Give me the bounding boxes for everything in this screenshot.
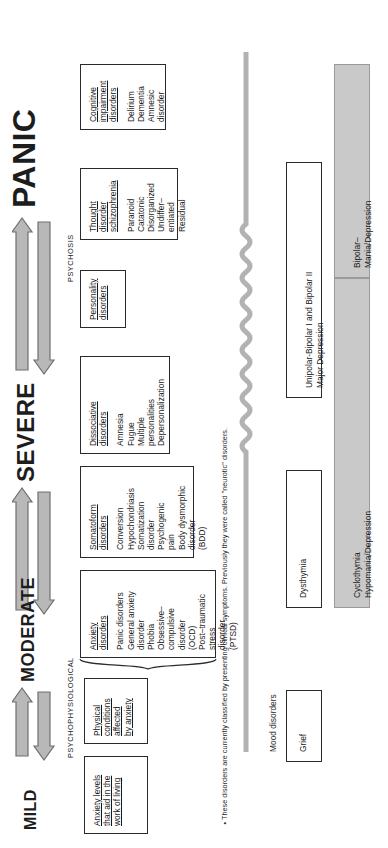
mood-box-bipolar-mania-depression[interactable]: Bipolar– Mania/Depression	[334, 64, 370, 278]
box-somatoform-disorders-heading: Somatoform disorders	[88, 473, 108, 550]
mood-disorders-axis-label: Mood disorders	[268, 694, 278, 752]
mood-box-bipolar-mania-depression-label: Bipolar– Mania/Depression	[352, 201, 372, 269]
box-somatoform-disorders-items: Conversion Hypochondriasis Somatization …	[115, 473, 207, 550]
box-cognitive-impairment[interactable]: Cognitive impairment disorders Delirium …	[80, 64, 166, 130]
box-anxiety-disorders-heading: Anxiety disorders	[88, 577, 108, 650]
box-thought-disorder[interactable]: Thought disorder schizophrenia Paranoid …	[80, 168, 178, 240]
section-label-psychosis: PSYCHOSIS	[66, 234, 75, 282]
mood-box-unipolar-major-depression-label: Unipolar-Bipolar I and Bipolar II Major …	[304, 272, 324, 388]
box-anxiety-levels-heading: Anxiety levels that aid in the work of l…	[92, 763, 123, 826]
box-dissociative-disorders[interactable]: Dissociative disorders Amnesia Fugue Mul…	[80, 356, 170, 454]
scale-label-moderate: MODERATE	[18, 577, 39, 682]
box-personality-disorders[interactable]: Personality disorders	[80, 270, 126, 328]
mood-box-grief[interactable]: Grief	[286, 690, 322, 762]
scale-arrow-severe-panic	[12, 216, 58, 376]
box-thought-disorder-items: Paranoid Catatonic Disorganized Undiffer…	[126, 175, 187, 232]
mood-box-grief-label: Grief	[298, 734, 308, 752]
box-cognitive-impairment-heading: Cognitive impairment disorders	[88, 71, 119, 122]
rotated-artwork: MILD MODERATE SEVERE PANIC PSYCHOPHYSIOL…	[0, 0, 388, 848]
box-thought-disorder-heading: Thought disorder schizophrenia	[88, 175, 119, 232]
mood-box-unipolar-major-depression[interactable]: Unipolar-Bipolar I and Bipolar II Major …	[286, 162, 322, 398]
neurotic-group-brace	[78, 658, 218, 670]
mood-box-cyclothymia-label: Cyclothymia Hypomania/Depression	[352, 511, 372, 598]
section-label-psychophysiological: PSYCHOPHYSIOLOGICAL	[66, 657, 75, 758]
mood-box-dysthymia-label: Dysthymia	[298, 559, 308, 598]
wavy-divider	[238, 52, 254, 752]
box-somatoform-disorders[interactable]: Somatoform disorders Conversion Hypochon…	[80, 466, 194, 558]
mood-box-dysthymia[interactable]: Dysthymia	[286, 470, 322, 608]
box-personality-disorders-heading: Personality disorders	[88, 277, 108, 320]
scale-label-panic: PANIC	[6, 109, 43, 208]
scale-arrow-mild-moderate	[12, 686, 58, 762]
box-dissociative-disorders-items: Amnesia Fugue Multiple personalities Dep…	[115, 363, 166, 446]
box-physical-conditions[interactable]: Physical conditions affected by anxiety	[84, 678, 148, 744]
box-anxiety-disorders[interactable]: Anxiety disorders Panic disorders Genera…	[80, 570, 216, 658]
scale-label-mild: MILD	[22, 789, 40, 830]
scale-label-severe: SEVERE	[12, 382, 40, 482]
box-anxiety-levels[interactable]: Anxiety levels that aid in the work of l…	[84, 756, 148, 834]
diagram-canvas: MILD MODERATE SEVERE PANIC PSYCHOPHYSIOL…	[0, 0, 388, 848]
box-physical-conditions-heading: Physical conditions affected by anxiety	[92, 685, 133, 736]
box-cognitive-impairment-items: Delirium Dementia Amnesic disorder	[126, 71, 167, 122]
mood-box-cyclothymia[interactable]: Cyclothymia Hypomania/Depression	[334, 278, 370, 608]
footnote: • These disorders are currently classifi…	[220, 25, 229, 825]
box-dissociative-disorders-heading: Dissociative disorders	[88, 363, 108, 446]
